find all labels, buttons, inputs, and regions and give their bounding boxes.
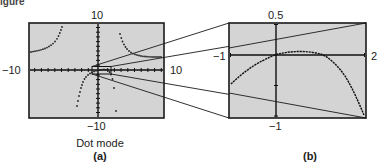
panel-b-caption: (b) — [295, 150, 325, 162]
figure-canvas — [0, 0, 378, 168]
panel-a-ymin-label: −10 — [87, 120, 106, 132]
panel-b-xmin-label: −1 — [213, 50, 226, 62]
panel-b-ymin-label: −1 — [269, 120, 282, 132]
panel-a-xmin-label: −10 — [2, 64, 21, 76]
panel-a-xmax-label: 10 — [170, 64, 182, 76]
panel-a-caption: (a) — [85, 150, 115, 162]
panel-b-ymax-label: 0.5 — [268, 9, 283, 21]
panel-a-ymax-label: 10 — [91, 9, 103, 21]
panel-b-screen — [229, 23, 366, 118]
panel-b-xmax-label: 2 — [371, 50, 377, 62]
panel-a-mode-caption: Dot mode — [75, 137, 125, 149]
